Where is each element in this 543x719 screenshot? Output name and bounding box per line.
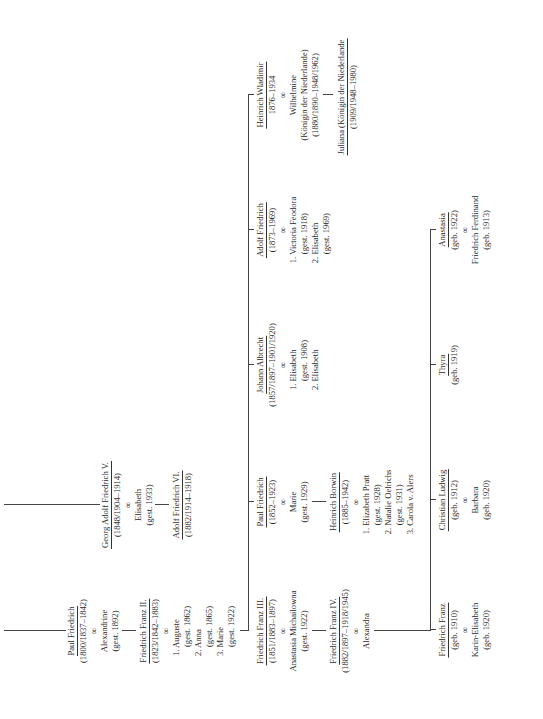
node-juliana: Juliana (Königin der Niederlande (1909/1… bbox=[336, 39, 359, 156]
tick bbox=[430, 229, 436, 230]
spouse-dates: (1880/1890–1948/1962) bbox=[310, 49, 321, 140]
marriage-symbol: ∞ bbox=[278, 591, 288, 672]
tick bbox=[248, 501, 254, 502]
person-name: Heinrich Borwin bbox=[328, 472, 340, 532]
node-christian-ludwig: Christian Ludwig (geb. 1912) ∞ Barbara (… bbox=[437, 469, 492, 531]
node-friedrich-franz-iii: Friedrich Franz III. (1851/1883–1897) ∞ … bbox=[255, 591, 310, 672]
spouse-list: 1. Elizabeth Pratt (gest. 1928) 2. Natal… bbox=[361, 470, 416, 535]
person-name: Friedrich Franz II. bbox=[138, 598, 150, 663]
tick bbox=[248, 229, 254, 230]
spouse-dates: (gest. 1931) bbox=[394, 470, 405, 535]
spouse-entry: 1. Elisabeth bbox=[288, 340, 299, 390]
spouse-entry: 2. Natalie Oelrichs bbox=[383, 470, 394, 535]
person-dates: (1848/1904–1914) bbox=[112, 461, 123, 549]
connector bbox=[155, 504, 169, 505]
person-dates: (geb. 1910) bbox=[449, 602, 460, 657]
spouse-title: (Königin der Niederlande) bbox=[299, 49, 310, 140]
spouse-dates: (gest. 1862) bbox=[182, 606, 193, 656]
person-name: Thyra bbox=[437, 354, 449, 377]
ancestor-line-1 bbox=[4, 630, 66, 631]
spouse-entry: 2. Elisabeth bbox=[310, 197, 321, 263]
spouse-name: Friedrich Ferdinand bbox=[470, 196, 481, 265]
person-name: Paul Friedrich bbox=[66, 606, 78, 657]
tick bbox=[430, 629, 436, 630]
node-johann-albrecht: Johann Albrecht (1857/1897–1901/1920) ∞ … bbox=[255, 323, 321, 407]
person-name: Adolf Friedrich VI. bbox=[171, 471, 183, 540]
person-dates: (1851/1883–1897) bbox=[267, 591, 278, 672]
spouse-dates: (gest. 1892) bbox=[110, 599, 121, 663]
marriage-symbol: ∞ bbox=[460, 469, 470, 531]
spouse-dates: (geb. 1913) bbox=[481, 196, 492, 265]
node-thyra: Thyra (geb. 1919) bbox=[437, 345, 460, 385]
spouse-entry: 1. Victoria Feodora bbox=[288, 197, 299, 263]
node-paul-friedrich-1852: Paul Friedrich (1852–1923) ∞ Marie (gest… bbox=[255, 477, 310, 528]
node-heinrich-borwin: Heinrich Borwin (1885–1942) ∞ 1. Elizabe… bbox=[328, 470, 416, 535]
person-name: Heinrich Wladimir bbox=[255, 62, 267, 129]
spouse-dates: (geb. 1920) bbox=[481, 602, 492, 657]
spouse-name: Barbara bbox=[470, 469, 481, 531]
person-dates: (1800/1837–1842) bbox=[78, 599, 89, 663]
marriage-symbol: ∞ bbox=[351, 470, 361, 535]
spouse-dates: (gest. 1918) bbox=[299, 197, 310, 263]
spouse-dates: (gest. 1908) bbox=[299, 340, 310, 390]
connector bbox=[122, 630, 136, 631]
tick bbox=[240, 630, 248, 631]
marriage-symbol: ∞ bbox=[460, 602, 470, 657]
person-dates: (1857/1897–1901/1920) bbox=[267, 323, 278, 407]
spouse-entry: 2. Anna bbox=[193, 606, 204, 656]
marriage-symbol: ∞ bbox=[278, 49, 288, 140]
person-dates: (1882/1897–1918/1945) bbox=[340, 589, 351, 673]
sibling-bracket bbox=[430, 230, 431, 631]
spouse-name: Alexandra bbox=[361, 589, 372, 673]
marriage-symbol: ∞ bbox=[278, 197, 288, 263]
spouse-entry: 1. Elizabeth Pratt bbox=[361, 470, 372, 535]
person-dates: (geb. 1912) bbox=[449, 469, 460, 531]
person-name: Adolf Friedrich bbox=[255, 202, 267, 258]
spouse-name: Anastasia Michailowna bbox=[288, 591, 299, 672]
person-dates: (1909/1948–1980) bbox=[348, 39, 359, 156]
spouse-entry: 2. Elisabeth bbox=[310, 340, 321, 390]
spouse-dates: (geb. 1920) bbox=[481, 469, 492, 531]
marriage-symbol: ∞ bbox=[351, 589, 361, 673]
spouse-name: Alexandrine bbox=[99, 599, 110, 663]
connector bbox=[374, 630, 430, 631]
person-name: Juliana (Königin der Niederlande bbox=[336, 39, 348, 156]
spouse-name: Marie bbox=[288, 477, 299, 528]
spouse-list: 1. Victoria Feodora (gest. 1918) 2. Elis… bbox=[288, 197, 332, 263]
node-adolf-friedrich-1873: Adolf Friedrich (1873–1969) ∞ 1. Victori… bbox=[255, 197, 332, 263]
person-name: Friedrich Franz III. bbox=[255, 597, 267, 665]
spouse-dates: (gest. 1928) bbox=[372, 470, 383, 535]
person-name: Friedrich Franz bbox=[437, 602, 449, 657]
node-paul-friedrich-1800: Paul Friedrich (1800/1837–1842) ∞ Alexan… bbox=[66, 599, 121, 663]
node-georg-adolf-friedrich-v: Georg Adolf Friedrich V. (1848/1904–1914… bbox=[100, 461, 155, 549]
spouse-entry: 3. Marie bbox=[215, 606, 226, 656]
spouse-dates: (gest. 1865) bbox=[204, 606, 215, 656]
person-name: Anastasia bbox=[437, 212, 449, 247]
spouse-entry: 1. Auguste bbox=[171, 606, 182, 656]
marriage-symbol: ∞ bbox=[460, 196, 470, 265]
node-anastasia: Anastasia (geb. 1922) ∞ Friedrich Ferdin… bbox=[437, 196, 492, 265]
tick bbox=[430, 499, 436, 500]
marriage-symbol: ∞ bbox=[278, 477, 288, 528]
spouse-dates: (gest. 1969) bbox=[321, 197, 332, 263]
marriage-symbol: ∞ bbox=[278, 323, 288, 407]
person-dates: (1885–1942) bbox=[340, 470, 351, 535]
node-friedrich-franz-ii: Friedrich Franz II. (1823/1842–1883) ∞ 1… bbox=[138, 598, 237, 663]
node-adolf-friedrich-vi: Adolf Friedrich VI. (1882/1914–1918) bbox=[171, 471, 194, 540]
node-friedrich-franz-iv: Friedrich Franz IV. (1882/1897–1918/1945… bbox=[328, 589, 372, 673]
marriage-symbol: ∞ bbox=[123, 461, 133, 549]
node-friedrich-franz-1910: Friedrich Franz (geb. 1910) ∞ Karin-Elis… bbox=[437, 602, 492, 657]
person-dates: 1876–1934 bbox=[267, 49, 278, 140]
spouse-list: 1. Elisabeth (gest. 1908) 2. Elisabeth bbox=[288, 340, 321, 390]
person-name: Christian Ludwig bbox=[437, 469, 449, 531]
marriage-symbol: ∞ bbox=[161, 598, 171, 663]
spouse-dates: (gest. 1922) bbox=[299, 591, 310, 672]
spouse-name: Elisabeth bbox=[133, 461, 144, 549]
ancestor-line-2 bbox=[4, 504, 100, 505]
spouse-name: Wilhelmine bbox=[288, 49, 299, 140]
person-dates: (1852–1923) bbox=[267, 477, 278, 528]
spouse-list: 1. Auguste (gest. 1862) 2. Anna (gest. 1… bbox=[171, 606, 237, 656]
spouse-name: Karin-Elisabeth bbox=[470, 602, 481, 657]
connector bbox=[312, 630, 326, 631]
spouse-entry: 3. Carola v. Alers bbox=[405, 470, 416, 535]
